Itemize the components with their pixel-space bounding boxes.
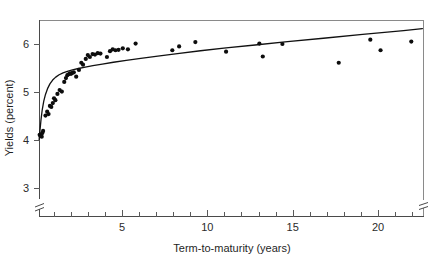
data-point [409, 40, 413, 44]
data-point [368, 38, 372, 42]
x-axis: 5101520 [39, 210, 424, 234]
x-tick-label-group: 5101520 [119, 221, 384, 233]
axis-break-right [419, 203, 428, 206]
yield-curve-figure: 6 5 4 3 5101520 Term-to-maturity (years)… [0, 0, 439, 261]
x-tick-label-5: 5 [119, 221, 125, 233]
data-point [193, 40, 197, 44]
axis-break-y [35, 204, 44, 208]
y-tick-label-4: 4 [23, 134, 29, 146]
data-point [378, 48, 382, 52]
data-point [170, 48, 174, 52]
data-point [257, 41, 261, 45]
data-point [280, 42, 284, 46]
data-point [72, 70, 76, 74]
y-tick-label-3: 3 [23, 182, 29, 194]
data-point [55, 92, 59, 96]
data-point [337, 61, 341, 65]
data-point [261, 54, 265, 58]
y-tick-label-6: 6 [23, 38, 29, 50]
data-point [126, 47, 130, 51]
data-point [224, 50, 228, 54]
data-point [49, 105, 53, 109]
data-point [40, 135, 44, 139]
plot-frame [39, 21, 428, 217]
x-tick-label-10: 10 [201, 221, 213, 233]
y-axis-title: Yields (percent) [3, 80, 15, 157]
data-point [81, 63, 85, 67]
data-point [121, 46, 125, 50]
data-point [77, 68, 81, 72]
data-point-group [38, 38, 414, 139]
data-point [60, 89, 64, 93]
y-tick-label-5: 5 [23, 86, 29, 98]
data-point [134, 41, 138, 45]
x-tick-label-20: 20 [372, 221, 384, 233]
x-tick-group [55, 210, 413, 217]
chart-canvas: 6 5 4 3 5101520 Term-to-maturity (years)… [0, 0, 439, 261]
data-point [46, 112, 50, 116]
data-point [41, 129, 45, 133]
data-point [62, 80, 66, 84]
data-point [177, 44, 181, 48]
data-point [116, 48, 120, 52]
data-point [53, 98, 57, 102]
data-point [105, 55, 109, 59]
x-tick-label-15: 15 [287, 221, 299, 233]
fitted-yield-curve [39, 29, 422, 140]
data-point [74, 75, 78, 79]
data-point [98, 52, 102, 56]
data-point [84, 57, 88, 61]
x-axis-title: Term-to-maturity (years) [173, 242, 290, 254]
